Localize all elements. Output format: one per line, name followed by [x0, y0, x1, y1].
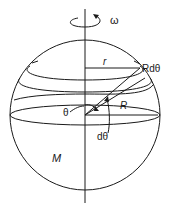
band-line	[14, 85, 153, 100]
omega-label: ω	[110, 15, 119, 26]
theta-label: θ	[63, 108, 69, 118]
arc-length-label: Rdθ	[142, 64, 160, 74]
rotating-sphere-diagram: ω r Rdθ θ R dθ M	[0, 0, 173, 210]
dtheta-label: dθ	[97, 132, 108, 142]
ring-radius-label: r	[103, 57, 106, 67]
mass-label: M	[52, 153, 61, 164]
sphere-radius-label: R	[120, 101, 127, 111]
